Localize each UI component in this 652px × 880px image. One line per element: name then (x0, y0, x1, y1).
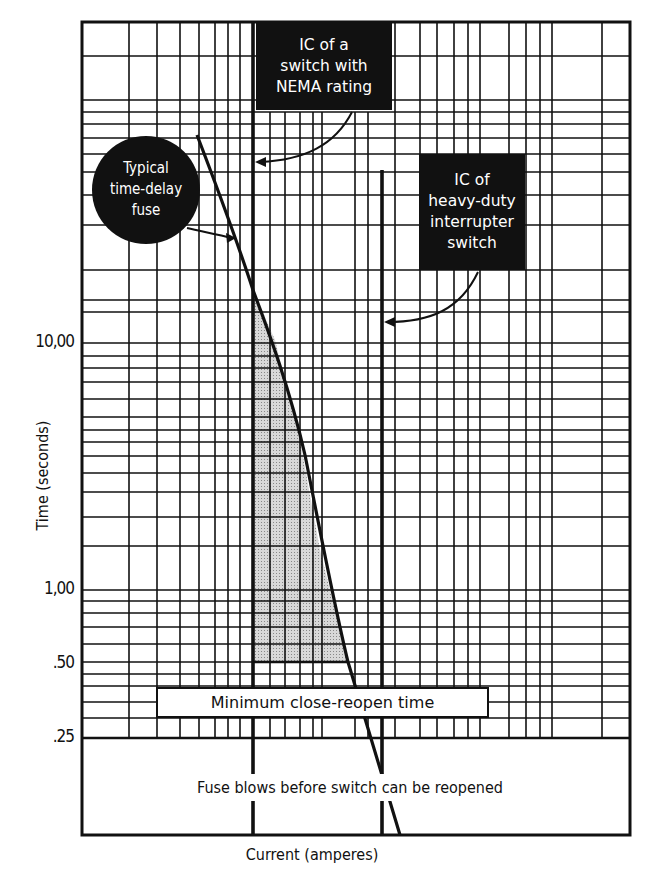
fuse-blows-label: Fuse blows before switch can be reopened (170, 774, 530, 801)
ytick-025: .25 (14, 726, 74, 746)
fuse-callout-text: Typical time-delay fuse (92, 158, 200, 221)
heavy-duty-callout-line-3: interrupter (430, 212, 514, 233)
heavy-duty-callout-line-2: heavy-duty (428, 191, 515, 212)
heavy-duty-callout-line-1: IC of (454, 170, 489, 191)
grid-vertical (129, 22, 602, 738)
ytick-10: 10,00 (14, 331, 74, 351)
ytick-1: 1,00 (14, 578, 74, 598)
chart-plot (0, 0, 652, 880)
y-axis-label: Time (seconds) (33, 406, 52, 546)
x-axis-label: Current (amperes) (232, 845, 392, 864)
nema-callout: IC of a switch with NEMA rating (256, 22, 392, 110)
heavy-duty-callout: IC of heavy-duty interrupter switch (419, 154, 525, 270)
min-close-reopen-label: Minimum close-reopen time (211, 693, 434, 712)
heavy-duty-callout-line-4: switch (447, 233, 496, 254)
arrow-heavy-duty (387, 272, 478, 322)
nema-callout-line-2: switch with (280, 56, 367, 77)
fuse-callout-line-1: Typical (92, 158, 200, 179)
arrow-fuse (187, 228, 232, 238)
nema-callout-line-1: IC of a (299, 35, 349, 56)
fuse-callout-line-3: fuse (92, 200, 200, 221)
ytick-050: .50 (14, 652, 74, 672)
min-close-reopen-box: Minimum close-reopen time (156, 687, 489, 718)
nema-callout-line-3: NEMA rating (276, 77, 372, 98)
fuse-callout-line-2: time-delay (92, 179, 200, 200)
